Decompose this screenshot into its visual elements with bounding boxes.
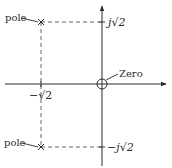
pole-zero-diagram: pole pole Zero j√2 −j√2 −√2 [0, 0, 172, 168]
real-neg-label: −√2 [29, 89, 52, 102]
pole-lower-label: pole [4, 137, 26, 148]
pole-upper-label: pole [5, 12, 27, 23]
imag-neg-label: −j√2 [107, 141, 134, 154]
zero-label: Zero [119, 68, 143, 79]
imag-pos-label: j√2 [105, 16, 125, 29]
zero-leader [106, 74, 118, 80]
